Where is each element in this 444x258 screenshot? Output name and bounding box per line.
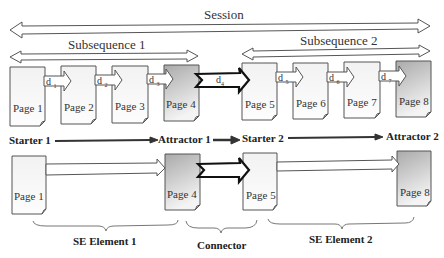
top-page-8-label: Page 8 [399,96,429,107]
top-page-2-label: Page 2 [64,102,94,113]
bottom-page-1-label: Page 1 [14,191,44,202]
top-page-5-label: Page 5 [245,99,275,110]
se2-arrow [277,156,399,172]
top-page-7-label: Page 7 [347,97,377,108]
top-page-5 [242,63,277,120]
starter-1-label: Starter 1 [9,135,51,146]
bottom-page-5-label: Page 5 [246,190,276,201]
bottom-page-8-label: Page 8 [400,187,430,198]
bottom-page-5 [243,153,277,210]
d1-label: d 1 [46,77,57,89]
se1-arrow [46,159,165,176]
se-element-1-label: SE Element 1 [73,236,137,247]
top-page-4-label: Page 4 [166,99,196,110]
se-element-2-label: SE Element 2 [309,234,373,245]
top-page-1-label: Page 1 [13,103,43,114]
braces [33,217,414,233]
bottom-page-4-label: Page 4 [167,189,197,200]
connector-arrow [198,158,249,182]
brace-se2 [268,217,414,229]
brace-connector [186,220,257,233]
starter-2-label: Starter 2 [242,133,284,144]
bottom-page-4 [165,154,200,210]
top-page-6-label: Page 6 [296,98,326,109]
brace-se1 [33,220,178,231]
d5-label: d 5 [278,73,289,85]
subsequence-2-label: Subsequence 2 [300,34,378,47]
d3-label: d 3 [149,75,160,87]
top-page-3-label: Page 3 [115,101,145,112]
session-label: Session [204,8,244,21]
d6-label: d 6 [329,73,340,85]
bottom-page-1 [12,156,46,214]
attractor-2-label: Attractor 2 [386,131,439,142]
attractor-1-label: Attractor 1 [158,134,211,145]
subsequence-1-label: Subsequence 1 [68,38,146,51]
d2-label: d 2 [97,76,108,88]
role-arrows [55,134,383,144]
d4-label: d4 [216,75,224,87]
connector-label: Connector [197,240,247,251]
d7-label: d 7 [381,72,392,84]
top-page-1 [10,67,45,126]
